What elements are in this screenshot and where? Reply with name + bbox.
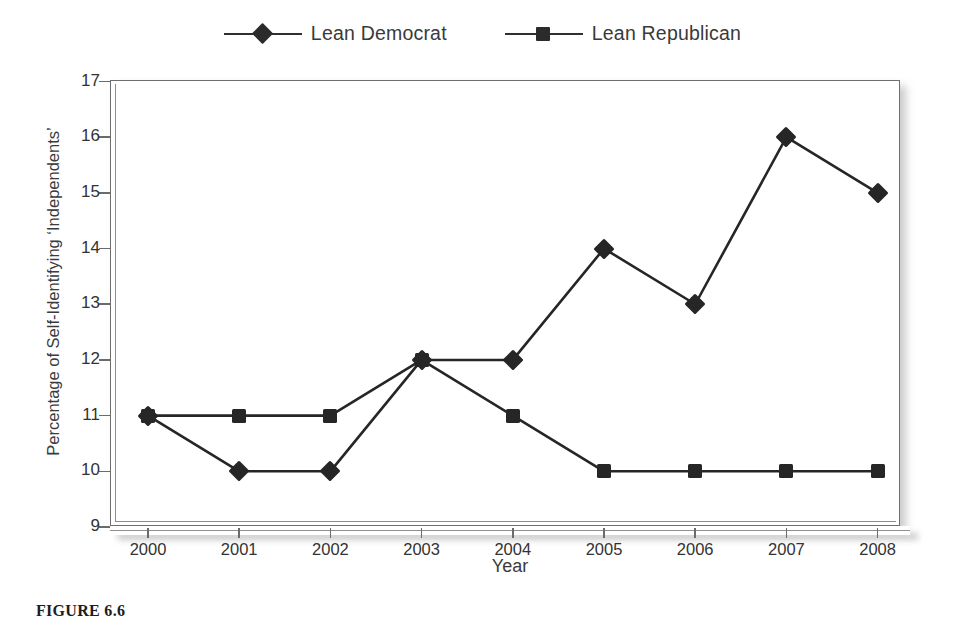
y-tick-label-15: 15 xyxy=(66,182,100,202)
square-marker-icon xyxy=(505,25,583,43)
x-tick-2006 xyxy=(694,528,696,538)
legend-label-lean-republican: Lean Republican xyxy=(592,22,741,45)
y-tick-label-12: 12 xyxy=(66,349,100,369)
y-tick-label-13: 13 xyxy=(66,293,100,313)
figure-caption: FIGURE 6.6 xyxy=(36,602,936,618)
y-tick-label-10: 10 xyxy=(66,460,100,480)
y-tick-label-17: 17 xyxy=(66,71,100,91)
x-tick-2001 xyxy=(238,528,240,538)
y-tick-label-16: 16 xyxy=(66,126,100,146)
plot-area xyxy=(110,80,900,526)
figure-caption-number: FIGURE 6.6 xyxy=(36,602,125,618)
y-tick-13 xyxy=(99,303,110,305)
data-point-lean-republican-2008 xyxy=(871,464,885,478)
y-tick-label-14: 14 xyxy=(66,238,100,258)
data-point-lean-republican-2004 xyxy=(506,409,520,423)
diamond-marker-icon xyxy=(224,25,302,43)
x-tick-2002 xyxy=(330,528,332,538)
data-point-lean-republican-2006 xyxy=(688,464,702,478)
legend-item-lean-republican[interactable]: Lean Republican xyxy=(505,22,741,45)
y-tick-17 xyxy=(99,81,110,83)
x-tick-2008 xyxy=(877,528,879,538)
y-tick-14 xyxy=(99,248,110,250)
data-point-lean-republican-2001 xyxy=(232,409,246,423)
y-tick-11 xyxy=(99,415,110,417)
y-tick-16 xyxy=(99,136,110,138)
legend-item-lean-democrat[interactable]: Lean Democrat xyxy=(224,22,447,45)
chart-legend: Lean Democrat Lean Republican xyxy=(0,22,965,45)
legend-label-lean-democrat: Lean Democrat xyxy=(311,22,447,45)
figure-container: Lean Democrat Lean Republican Percentage… xyxy=(0,0,965,618)
x-tick-2005 xyxy=(603,528,605,538)
data-point-lean-republican-2005 xyxy=(597,464,611,478)
y-tick-label-11: 11 xyxy=(66,405,100,425)
y-tick-9 xyxy=(99,526,110,528)
x-tick-2007 xyxy=(786,528,788,538)
y-tick-label-9: 9 xyxy=(66,516,100,536)
y-axis-title: Percentage of Self-Identifying ‘Independ… xyxy=(44,57,63,527)
x-axis-title: Year xyxy=(100,556,920,577)
data-point-lean-republican-2000 xyxy=(141,409,155,423)
y-tick-10 xyxy=(99,471,110,473)
data-point-lean-republican-2003 xyxy=(415,353,429,367)
data-point-lean-republican-2007 xyxy=(779,464,793,478)
y-tick-12 xyxy=(99,359,110,361)
plot-floor xyxy=(110,526,910,535)
x-tick-2004 xyxy=(512,528,514,538)
x-tick-2000 xyxy=(147,528,149,538)
x-tick-2003 xyxy=(421,528,423,538)
y-tick-15 xyxy=(99,192,110,194)
data-point-lean-republican-2002 xyxy=(323,409,337,423)
